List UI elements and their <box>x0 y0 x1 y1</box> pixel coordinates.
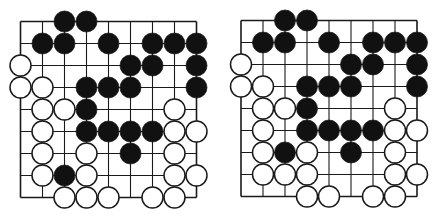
black-stone <box>385 32 406 53</box>
black-stone <box>54 33 75 54</box>
white-stone <box>385 142 406 163</box>
black-stone <box>120 121 141 142</box>
black-stone <box>275 142 296 163</box>
white-stone <box>76 187 97 208</box>
black-stone <box>120 77 141 98</box>
white-stone <box>385 120 406 141</box>
black-stone <box>297 10 318 31</box>
white-stone <box>275 98 296 119</box>
black-stone <box>319 120 340 141</box>
white-stone <box>253 76 274 97</box>
white-stone <box>253 98 274 119</box>
white-stone <box>164 143 185 164</box>
white-stone <box>253 142 274 163</box>
black-stone <box>275 10 296 31</box>
black-stone <box>186 33 207 54</box>
white-stone <box>32 165 53 186</box>
white-stone <box>363 186 384 207</box>
white-stone <box>164 121 185 142</box>
white-stone <box>98 187 119 208</box>
white-stone <box>164 165 185 186</box>
white-stone <box>231 76 252 97</box>
white-stone <box>253 164 274 185</box>
white-stone <box>385 186 406 207</box>
black-stone <box>164 33 185 54</box>
white-stone <box>32 77 53 98</box>
white-stone <box>407 164 428 185</box>
black-stone <box>54 11 75 32</box>
black-stone <box>76 77 97 98</box>
white-stone <box>164 187 185 208</box>
white-stone <box>32 99 53 120</box>
black-stone <box>186 77 207 98</box>
black-stone <box>319 32 340 53</box>
white-stone <box>186 121 207 142</box>
white-stone <box>297 186 318 207</box>
white-stone <box>297 164 318 185</box>
black-stone <box>407 76 428 97</box>
black-stone <box>98 33 119 54</box>
black-stone <box>54 165 75 186</box>
black-stone <box>253 32 274 53</box>
black-stone <box>98 77 119 98</box>
go-board-left <box>0 0 217 220</box>
black-stone <box>142 55 163 76</box>
black-stone <box>98 121 119 142</box>
white-stone <box>186 165 207 186</box>
white-stone <box>385 98 406 119</box>
black-stone <box>186 55 207 76</box>
white-stone <box>253 120 274 141</box>
white-stone <box>54 187 75 208</box>
black-stone <box>76 99 97 120</box>
white-stone <box>10 55 31 76</box>
black-stone <box>120 143 141 164</box>
black-stone <box>297 120 318 141</box>
black-stone <box>76 11 97 32</box>
black-stone <box>341 142 362 163</box>
black-stone <box>142 121 163 142</box>
white-stone <box>76 143 97 164</box>
black-stone <box>297 76 318 97</box>
black-stone <box>363 32 384 53</box>
black-stone <box>275 32 296 53</box>
black-stone <box>76 121 97 142</box>
white-stone <box>297 142 318 163</box>
black-stone <box>407 32 428 53</box>
white-stone <box>54 99 75 120</box>
black-stone <box>32 33 53 54</box>
white-stone <box>319 186 340 207</box>
white-stone <box>32 143 53 164</box>
black-stone <box>407 54 428 75</box>
white-stone <box>142 187 163 208</box>
black-stone <box>319 76 340 97</box>
black-stone <box>120 55 141 76</box>
black-stone <box>363 120 384 141</box>
black-stone <box>341 120 362 141</box>
black-stone <box>297 98 318 119</box>
white-stone <box>76 165 97 186</box>
go-board-right <box>217 0 434 220</box>
white-stone <box>32 121 53 142</box>
white-stone <box>10 77 31 98</box>
white-stone <box>231 54 252 75</box>
white-stone <box>385 164 406 185</box>
black-stone <box>341 54 362 75</box>
white-stone <box>275 164 296 185</box>
black-stone <box>363 54 384 75</box>
white-stone <box>164 99 185 120</box>
black-stone <box>341 76 362 97</box>
white-stone <box>407 120 428 141</box>
black-stone <box>142 33 163 54</box>
